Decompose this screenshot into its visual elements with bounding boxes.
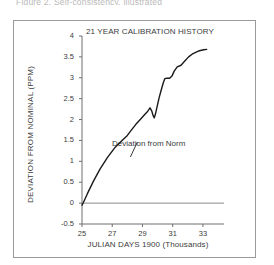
- x-tick-label: 31: [163, 229, 183, 238]
- y-tick-label: 1: [52, 156, 74, 165]
- y-tick-label: 3.5: [52, 52, 74, 61]
- x-tick-label: 29: [132, 229, 152, 238]
- y-tick-label: 2: [52, 115, 74, 124]
- data-series-deviation-from-norm: [82, 49, 207, 205]
- x-tick-label: 25: [72, 229, 92, 238]
- y-tick-label: 0: [52, 198, 74, 207]
- y-tick-label: 1.5: [52, 135, 74, 144]
- chart-plot-svg: [0, 0, 274, 265]
- annotation-leader-line: [130, 142, 137, 157]
- y-tick-label: 3: [52, 73, 74, 82]
- y-tick-label: 0.5: [52, 177, 74, 186]
- y-tick-label: 4: [52, 31, 74, 40]
- y-tick-label: -0.5: [52, 219, 74, 228]
- x-tick-label: 27: [102, 229, 122, 238]
- y-tick-label: 2.5: [52, 94, 74, 103]
- calibration-history-chart: 21 YEAR CALIBRATION HISTORY DEVIATION FR…: [0, 0, 274, 265]
- x-tick-label: 33: [193, 229, 213, 238]
